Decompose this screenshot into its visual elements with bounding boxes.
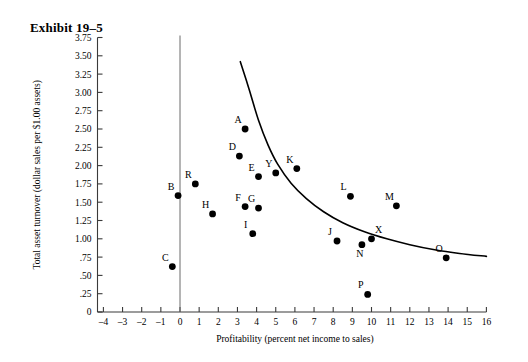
x-tick-label: 5 — [273, 317, 278, 327]
data-point-o — [443, 254, 450, 261]
scatter-plot: 0.25.50.751.001.251.501.752.002.252.502.… — [0, 0, 528, 362]
y-tick-label: 1.50 — [75, 198, 92, 208]
x-axis-title: Profitability (percent net income to sal… — [216, 334, 374, 345]
data-point-label-r: R — [185, 169, 192, 180]
x-tick-label: –3 — [117, 317, 128, 327]
x-tick-label: 16 — [482, 317, 492, 327]
data-point-label-b: B — [168, 181, 175, 192]
x-tick-label: 11 — [386, 317, 395, 327]
data-point-h — [209, 211, 216, 218]
data-point-x — [368, 235, 375, 242]
x-tick-label: 13 — [424, 317, 434, 327]
data-point-label-p: P — [358, 279, 364, 290]
data-point-d — [236, 153, 243, 160]
data-point-f — [242, 203, 249, 210]
y-tick-label: .50 — [80, 271, 92, 281]
x-tick-label: 6 — [293, 317, 298, 327]
x-tick-label: 0 — [178, 317, 183, 327]
x-tick-label: 9 — [350, 317, 355, 327]
y-tick-label: .25 — [80, 289, 92, 299]
y-axis-title: Total asset turnover (dollar sales per $… — [32, 80, 43, 269]
data-point-l — [347, 193, 354, 200]
trend-curve-layer — [240, 62, 486, 257]
data-point-label-g: G — [248, 193, 255, 204]
data-point-label-j: J — [328, 226, 332, 237]
axes-layer: 0.25.50.751.001.251.501.752.002.252.502.… — [75, 33, 492, 327]
y-tick-label: 1.75 — [75, 179, 92, 189]
data-point-g — [255, 205, 262, 212]
data-point-p — [364, 291, 371, 298]
x-tick-label: –2 — [136, 317, 147, 327]
data-point-label-n: N — [356, 248, 363, 259]
x-tick-label: 4 — [254, 317, 259, 327]
x-tick-label: –4 — [98, 317, 109, 327]
data-point-label-x: X — [375, 224, 383, 235]
data-points-layer: ABCDEFGHIJKLMNOPRXY — [162, 114, 450, 298]
data-point-i — [249, 230, 256, 237]
x-tick-label: 12 — [405, 317, 415, 327]
data-point-c — [169, 263, 176, 270]
exhibit-figure: Exhibit 19–5 0.25.50.751.001.251.501.752… — [0, 0, 528, 362]
data-point-a — [242, 126, 249, 133]
y-tick-label: 2.75 — [75, 106, 92, 116]
data-point-label-y: Y — [265, 158, 272, 169]
data-point-y — [272, 170, 279, 177]
y-tick-label: 3.50 — [75, 51, 92, 61]
y-tick-label: 1.00 — [75, 234, 92, 244]
data-point-label-a: A — [234, 114, 242, 125]
data-point-label-d: D — [229, 141, 236, 152]
axis-titles-layer: Profitability (percent net income to sal… — [32, 80, 374, 345]
x-tick-label: 7 — [312, 317, 317, 327]
data-point-j — [334, 238, 341, 245]
data-point-label-c: C — [162, 252, 169, 263]
y-tick-label: 2.50 — [75, 124, 92, 134]
data-point-k — [293, 165, 300, 172]
data-point-label-o: O — [436, 243, 443, 254]
data-point-label-m: M — [385, 191, 394, 202]
data-point-b — [175, 192, 182, 199]
x-tick-label: 14 — [443, 317, 453, 327]
data-point-label-h: H — [202, 199, 209, 210]
y-tick-label: 2.25 — [75, 143, 92, 153]
data-point-label-f: F — [235, 192, 241, 203]
y-tick-label: 3.75 — [75, 33, 92, 43]
y-tick-label: 3.25 — [75, 70, 92, 80]
x-tick-label: –1 — [155, 317, 166, 327]
data-point-r — [192, 181, 199, 188]
x-tick-label: 8 — [331, 317, 336, 327]
x-tick-label: 1 — [197, 317, 202, 327]
data-point-e — [255, 173, 262, 180]
x-tick-label: 2 — [216, 317, 221, 327]
data-point-m — [393, 202, 400, 209]
y-tick-label: 2.00 — [75, 161, 92, 171]
regression-trend-curve — [240, 62, 486, 257]
y-tick-label: 3.00 — [75, 88, 92, 98]
x-tick-label: 3 — [235, 317, 240, 327]
data-point-label-e: E — [248, 162, 254, 173]
x-tick-label: 10 — [367, 317, 377, 327]
y-tick-label: 1.25 — [75, 216, 92, 226]
y-tick-label: 0 — [87, 307, 92, 317]
x-tick-label: 15 — [463, 317, 473, 327]
data-point-label-l: L — [340, 181, 346, 192]
data-point-label-k: K — [286, 154, 294, 165]
y-tick-label: .75 — [80, 253, 92, 263]
data-point-label-i: I — [244, 219, 247, 230]
